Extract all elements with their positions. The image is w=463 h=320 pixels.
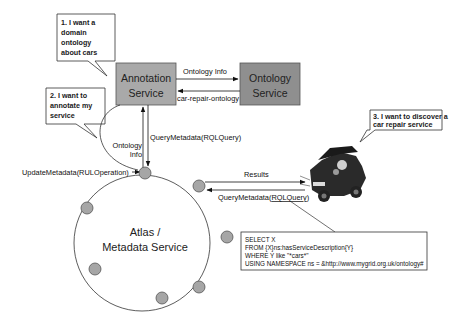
speech-bubble-2: 2. I want to annotate my service <box>46 88 105 138</box>
query-line-2: FROM {X}ns:hasServiceDescription{Y} <box>245 244 353 252</box>
ontology-info-down-line-2: Info <box>130 150 142 159</box>
rql-query-box: SELECT X FROM {X}ns:hasServiceDescriptio… <box>241 232 427 270</box>
bubble-2-line-2: annotate my <box>50 101 92 110</box>
update-metadata-label: UpdateMetadata(RULOperation) <box>22 168 129 177</box>
annotation-curve <box>100 105 138 170</box>
bubble-2-line-3: service <box>50 111 75 120</box>
car-repair-ontology-label: car-repair-ontology <box>177 94 239 103</box>
atlas-node <box>193 281 205 293</box>
bubble-1-line-1: 1. I want a <box>61 18 96 27</box>
atlas-node <box>89 263 101 275</box>
atlas-node <box>81 202 93 214</box>
speech-bubble-3: 3. I want to discover a car repair servi… <box>360 110 449 142</box>
ontology-service-line-2: Service <box>252 87 287 99</box>
annotation-service-line-1: Annotation <box>121 72 171 84</box>
query-line-1: SELECT X <box>245 236 276 243</box>
query-connector-line <box>290 201 335 232</box>
atlas-line-1: Atlas / <box>130 226 162 238</box>
ontology-service-box: Ontology Service <box>240 63 300 105</box>
annotation-service-box: Annotation Service <box>116 63 176 105</box>
atlas-node <box>156 292 168 304</box>
bubble-1-line-3: ontology <box>61 38 91 47</box>
query-line-3: WHERE Y like "*cars*" <box>245 252 308 259</box>
ontology-info-label: Ontology Info <box>183 67 227 76</box>
bubble-1-line-4: about cars <box>61 48 97 57</box>
speech-bubble-1: 1. I want a domain ontology about cars <box>57 14 115 76</box>
query-metadata-top-label: QueryMetadata(RQLQuery) <box>150 133 241 142</box>
atlas-node <box>221 231 233 243</box>
bubble-2-line-1: 2. I want to <box>50 91 88 100</box>
atlas-node <box>193 180 205 192</box>
ontology-service-line-1: Ontology <box>249 72 292 84</box>
query-line-4: USING NAMESPACE ns = &http://www.mygrid.… <box>245 260 424 268</box>
query-metadata-client-label: QueryMetadata(RQLQuery) <box>218 193 309 202</box>
annotation-service-line-2: Service <box>128 87 163 99</box>
atlas-node <box>139 167 151 179</box>
atlas-line-2: Metadata Service <box>102 241 188 253</box>
car-repair-icon <box>300 146 366 202</box>
architecture-diagram: 1. I want a domain ontology about cars 2… <box>0 0 463 320</box>
bubble-1-line-2: domain <box>61 28 87 37</box>
bubble-3-line-2: car repair service <box>373 120 433 129</box>
ontology-info-down-line-1: Ontology <box>112 141 142 150</box>
results-label: Results <box>244 170 269 179</box>
